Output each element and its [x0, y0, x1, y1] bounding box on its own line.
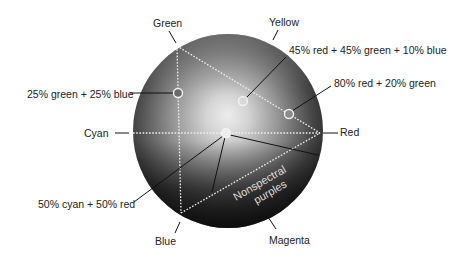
label-50-cyan-50-red: 50% cyan + 50% red [38, 198, 135, 210]
label-25-green-25-blue: 25% green + 25% blue [27, 88, 134, 100]
label-magenta: Magenta [269, 234, 310, 246]
label-yellow: Yellow [269, 16, 299, 28]
label-cyan: Cyan [84, 127, 109, 139]
marker-80-red-20-green [285, 110, 294, 119]
marker-25-green-25-blue [174, 89, 183, 98]
color-sphere-diagram: Green Yellow Cyan Red Blue Magenta 25% g… [0, 0, 457, 260]
label-45-red-45-green-10-blue: 45% red + 45% green + 10% blue [289, 44, 447, 56]
marker-white-point [222, 129, 231, 138]
label-green: Green [153, 17, 182, 29]
label-80-red-20-green: 80% red + 20% green [334, 77, 436, 89]
label-blue: Blue [155, 235, 176, 247]
label-red: Red [340, 126, 359, 138]
marker-45-red-45-green-10-blue [239, 97, 248, 106]
